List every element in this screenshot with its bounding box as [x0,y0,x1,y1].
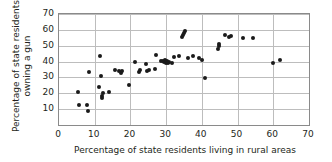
y-axis-title-line1: Percentage of state residents [11,0,22,134]
y-tick-label: 50 [38,41,54,50]
data-point [101,91,105,95]
data-point [216,47,220,51]
data-point [86,109,90,113]
y-axis-title-line2: owning a gun [22,0,33,134]
data-point [172,55,176,59]
data-point [138,68,142,72]
x-axis-tick-labels: 010203040506070 [58,130,310,142]
x-tick-label: 20 [118,130,140,139]
data-point [200,58,204,62]
x-tick-label: 10 [83,130,105,139]
plot-area [58,13,310,126]
gridline-vertical [273,14,274,125]
y-tick-label: 30 [38,72,54,81]
gridline-horizontal [59,14,309,15]
y-tick-label: 60 [38,25,54,34]
data-point [87,70,91,74]
data-point [251,36,255,40]
x-axis-title: Percentage of state residents living in … [40,145,330,155]
data-point [113,68,117,72]
x-tick-label: 60 [261,130,283,139]
data-point [186,56,190,60]
gridline-horizontal [59,77,309,78]
gridline-vertical [166,14,167,125]
data-point [85,103,89,107]
data-point [144,62,148,66]
data-point [100,96,104,100]
gridline-horizontal [59,109,309,110]
data-point [271,61,275,65]
y-tick-label: 70 [38,9,54,18]
y-tick-label: 10 [38,104,54,113]
data-point [177,54,181,58]
data-point [77,103,81,107]
data-point [133,60,137,64]
data-point [203,76,207,80]
gridline-horizontal [59,93,309,94]
data-point [76,90,80,94]
x-tick-label: 30 [154,130,176,139]
x-tick-label: 70 [297,130,319,139]
data-point [120,69,124,73]
scatter-chart-figure: Percentage of state residents owning a g… [0,0,332,162]
y-tick-label: 40 [38,57,54,66]
y-axis-tick-labels: 10203040506070 [36,13,54,126]
data-point [97,85,101,89]
data-point [153,67,157,71]
data-point [241,36,245,40]
data-point [191,54,195,58]
x-tick-label: 50 [226,130,248,139]
gridline-vertical [238,14,239,125]
x-tick-label: 0 [47,130,69,139]
data-point [98,54,102,58]
gridline-horizontal [59,46,309,47]
x-tick-label: 40 [190,130,212,139]
y-tick-label: 20 [38,88,54,97]
gridline-vertical [130,14,131,125]
data-point [154,53,158,57]
y-axis-title: Percentage of state residents owning a g… [11,0,33,134]
data-point [170,61,174,65]
gridline-vertical [202,14,203,125]
data-point [183,29,187,33]
data-point [229,34,233,38]
gridline-vertical [95,14,96,125]
data-point [147,68,151,72]
